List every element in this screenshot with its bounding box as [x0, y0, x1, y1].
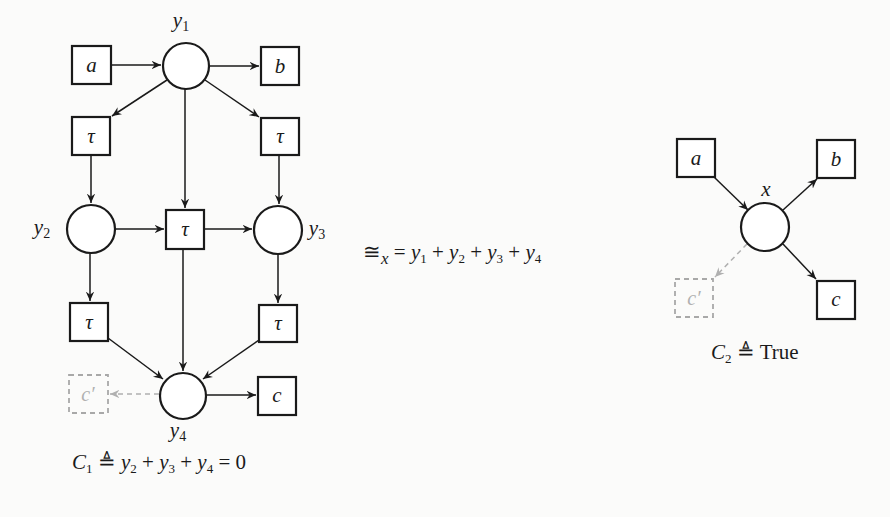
- definition-symbol: ≜: [737, 340, 755, 364]
- plus-operator: +: [508, 240, 520, 264]
- transition-tau-top-right: τ: [261, 118, 299, 155]
- constraint-c2: C2 ≜ True: [711, 340, 799, 365]
- place-y2: y2: [32, 205, 115, 253]
- plus-operator: +: [142, 450, 154, 474]
- ghost-transition-c-prime: c′: [69, 375, 108, 413]
- constraint-subscript: 1: [86, 461, 93, 476]
- ghost-edge-x-c-prime: [715, 244, 747, 277]
- equivalence-relation: ≅x = y1 + y2 + y3 + y4: [363, 240, 541, 265]
- term-sub: 2: [130, 461, 137, 476]
- term-sub: 1: [420, 251, 427, 266]
- term-sub: 4: [535, 251, 542, 266]
- term-sub: 2: [458, 251, 465, 266]
- definition-symbol: ≜: [98, 450, 116, 474]
- constraint-c1: C1 ≜ y2 + y3 + y4 = 0: [72, 450, 246, 475]
- edge-x-c: [783, 244, 816, 279]
- transition-tau-top-left: τ: [72, 117, 110, 155]
- right-place-x: x: [741, 177, 789, 251]
- transition-label: c: [272, 383, 282, 407]
- term-sub: 3: [169, 461, 176, 476]
- constraint-name: C: [711, 340, 725, 364]
- constraint-rhs: = 0: [218, 450, 246, 474]
- transition-label: c: [831, 287, 841, 311]
- transition-c: c: [258, 377, 296, 415]
- place-y4: y4: [160, 373, 206, 444]
- equals-sign: =: [394, 240, 406, 264]
- left-net: a b τ τ τ τ τ c: [32, 8, 325, 444]
- term-sub: 4: [207, 461, 214, 476]
- right-transition-b: b: [817, 140, 855, 178]
- term-var: y: [197, 450, 206, 474]
- place-label: y4: [168, 418, 186, 444]
- transition-a: a: [72, 46, 111, 84]
- right-ghost-transition-c-prime: c′: [675, 279, 713, 317]
- edge-tau-bottom-left-y4: [108, 338, 163, 379]
- transition-tau-bottom-left: τ: [70, 303, 108, 341]
- transition-b: b: [261, 47, 299, 85]
- place-label: y1: [171, 8, 189, 34]
- place-label: y3: [307, 216, 325, 242]
- relation-subscript: x: [381, 249, 389, 268]
- term-var: y: [487, 240, 496, 264]
- place-label: y2: [32, 215, 50, 241]
- transition-tau-middle: τ: [166, 210, 204, 249]
- transition-tau-bottom-right: τ: [259, 305, 297, 342]
- term-var: y: [411, 240, 420, 264]
- edge-a-x: [714, 177, 748, 210]
- constraint-name: C: [72, 450, 86, 474]
- congruence-symbol: ≅: [363, 240, 381, 264]
- right-transition-a: a: [677, 139, 715, 177]
- right-transition-c: c: [817, 281, 855, 319]
- transition-label: b: [831, 147, 842, 171]
- petri-net-figure: a b τ τ τ τ τ c: [0, 0, 890, 517]
- constraint-value: True: [760, 340, 799, 364]
- constraint-subscript: 2: [725, 351, 732, 366]
- term-var: y: [449, 240, 458, 264]
- plus-operator: +: [470, 240, 482, 264]
- term-var: y: [525, 240, 534, 264]
- edge-y1-tau-left: [112, 80, 167, 116]
- place-y3: y3: [254, 206, 325, 254]
- edge-tau-bottom-right-y4: [203, 340, 259, 379]
- term-sub: 3: [497, 251, 504, 266]
- right-net: a b c c′ x: [675, 139, 855, 319]
- term-var: y: [121, 450, 130, 474]
- edge-y1-tau-right: [205, 80, 259, 117]
- transition-label: c′: [81, 383, 95, 405]
- place-y1: y1: [163, 8, 209, 89]
- plus-operator: +: [432, 240, 444, 264]
- transition-label: a: [691, 146, 702, 170]
- transition-label: c′: [687, 287, 701, 309]
- transition-label: a: [86, 53, 97, 77]
- term-var: y: [159, 450, 168, 474]
- plus-operator: +: [180, 450, 192, 474]
- edge-x-b: [783, 179, 817, 210]
- place-label: x: [760, 177, 771, 201]
- transition-label: b: [275, 54, 286, 78]
